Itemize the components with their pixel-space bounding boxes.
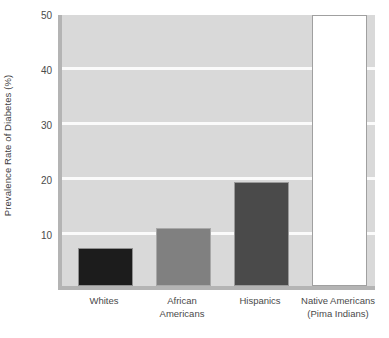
- bar-native-americans: [312, 15, 367, 286]
- y-axis-title-text: Prevalence Rate of Diabetes (%): [3, 74, 14, 215]
- x-tick-label-african-americans-line2: Americans: [160, 307, 205, 320]
- bar-whites: [78, 248, 133, 286]
- bar-hispanics: [234, 182, 289, 286]
- bar-chart: Prevalence Rate of Diabetes (%) 50 40 30…: [0, 0, 389, 338]
- y-tick-label-40: 40: [41, 65, 52, 76]
- x-tick-label-hispanics-line1: Hispanics: [239, 295, 280, 306]
- y-tick-label-50: 50: [41, 10, 52, 21]
- y-axis-tick-labels: 50 40 30 20 10: [18, 0, 56, 338]
- x-tick-label-native-americans: Native Americans (Pima Indians): [301, 294, 375, 320]
- x-tick-label-native-americans-line2: (Pima Indians): [301, 307, 375, 320]
- y-tick-label-30: 30: [41, 120, 52, 131]
- x-axis-tick-labels: Whites African Americans Hispanics Nativ…: [58, 294, 375, 338]
- x-tick-label-native-americans-line1: Native Americans: [301, 295, 375, 306]
- x-tick-label-whites: Whites: [89, 294, 118, 307]
- y-axis-title: Prevalence Rate of Diabetes (%): [0, 0, 16, 290]
- x-tick-label-african-americans-line1: African: [167, 295, 197, 306]
- x-tick-label-african-americans: African Americans: [160, 294, 205, 320]
- y-tick-label-10: 10: [41, 230, 52, 241]
- x-tick-label-hispanics: Hispanics: [239, 294, 280, 307]
- x-tick-label-whites-line1: Whites: [89, 295, 118, 306]
- plot-area: [58, 15, 375, 290]
- bar-african-americans: [156, 228, 211, 286]
- y-tick-label-20: 20: [41, 175, 52, 186]
